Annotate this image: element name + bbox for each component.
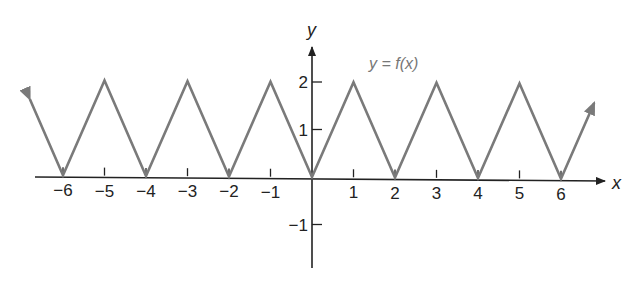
- y-tick-label: −1: [289, 216, 308, 235]
- x-tick-label: −2: [219, 182, 238, 201]
- x-axis-label: x: [611, 173, 622, 193]
- triangle-wave-plot: −6−5−4−3−2−1123456 21−1 x y y = f(x): [0, 0, 633, 289]
- x-tick-label: −5: [95, 182, 114, 201]
- x-tick-label: 4: [473, 184, 482, 203]
- y-tick-label: 1: [299, 121, 308, 140]
- x-tick-label: 6: [556, 185, 565, 204]
- x-tick-label: 2: [390, 184, 399, 203]
- y-ticks: 21−1: [289, 73, 322, 235]
- x-tick-label: 1: [349, 183, 358, 202]
- x-tick-label: −6: [53, 181, 72, 200]
- y-tick-label: 2: [299, 73, 308, 92]
- y-axis-label: y: [305, 20, 317, 40]
- x-tick-label: 3: [432, 184, 441, 203]
- function-label: y = f(x): [368, 55, 418, 72]
- x-tick-label: 5: [515, 184, 524, 203]
- x-tick-label: −1: [261, 183, 280, 202]
- x-tick-label: −3: [178, 182, 197, 201]
- x-tick-label: −4: [136, 182, 155, 201]
